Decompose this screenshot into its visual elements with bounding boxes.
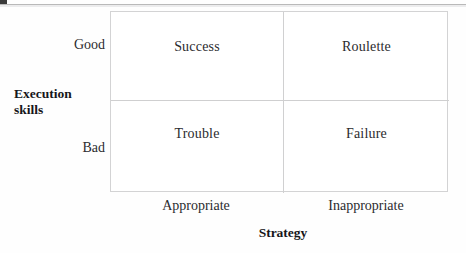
quadrant-trouble: Trouble xyxy=(111,101,283,193)
y-axis-title: Execution skills xyxy=(14,86,106,118)
quadrant-roulette-label: Roulette xyxy=(342,39,391,55)
strategy-execution-matrix-figure: Execution skills Good Bad Success Roulet… xyxy=(0,0,466,253)
x-axis-tick-inappropriate: Inappropriate xyxy=(292,198,440,214)
page-top-rule-shadow xyxy=(0,5,466,7)
x-axis-title: Strategy xyxy=(183,225,383,241)
quadrant-failure-label: Failure xyxy=(346,126,387,142)
y-axis-title-line-1: Execution xyxy=(14,86,106,102)
x-axis-tick-appropriate: Appropriate xyxy=(126,198,266,214)
quadrant-failure: Failure xyxy=(284,101,449,193)
quadrant-success: Success xyxy=(111,12,283,100)
quadrant-success-label: Success xyxy=(174,39,220,55)
matrix-box: Success Roulette Trouble Failure xyxy=(110,11,448,192)
y-axis-tick-bad: Bad xyxy=(10,140,105,156)
quadrant-trouble-label: Trouble xyxy=(174,126,219,142)
y-axis-title-line-2: skills xyxy=(14,102,106,118)
y-axis-tick-good: Good xyxy=(10,37,105,53)
quadrant-roulette: Roulette xyxy=(284,12,449,100)
